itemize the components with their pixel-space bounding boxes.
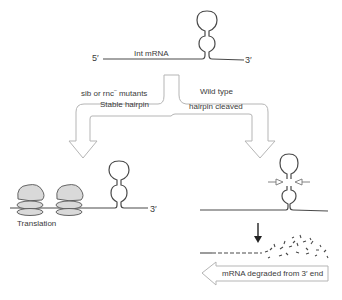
degraded-mrna xyxy=(200,235,328,258)
three-prime-label-left: 3′ xyxy=(150,205,157,214)
degradation-label: mRNA degraded from 3′ end xyxy=(222,270,323,278)
five-prime-label: 5′ xyxy=(92,54,99,63)
cleavage-arrows xyxy=(268,179,310,185)
ribosome-2 xyxy=(56,185,83,216)
right-mrna xyxy=(200,154,328,211)
left-condition-label: sib or rnc– mutants xyxy=(81,88,147,98)
left-condition-tail: mutants xyxy=(117,89,148,98)
left-condition-main: sib or rnc xyxy=(81,89,114,98)
right-condition-label: Wild type xyxy=(200,88,233,96)
left-result-label: Stable hairpin xyxy=(100,101,149,109)
ribosome-1 xyxy=(17,185,44,216)
top-mrna xyxy=(103,11,244,60)
diagram-canvas xyxy=(0,0,342,300)
three-prime-label-top: 3′ xyxy=(245,56,252,65)
int-mrna-label: Int mRNA xyxy=(134,50,169,58)
down-arrow xyxy=(254,223,262,243)
right-result-label: hairpin cleaved xyxy=(189,103,243,111)
translation-label: Translation xyxy=(17,220,56,228)
